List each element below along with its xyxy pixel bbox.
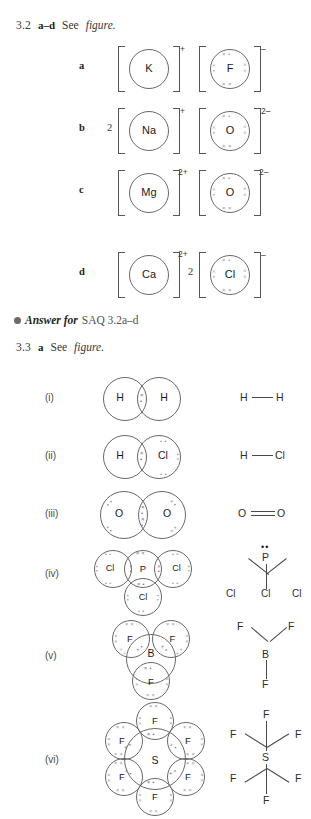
atom-circle-o-right: O • • • • xyxy=(138,491,186,539)
molecule-row-iii: (iii) O • • • • O • • • • × • × • O O xyxy=(0,486,311,544)
atom-circle-f: F × • × × × • × × xyxy=(210,49,250,89)
electron-pair-top: • • xyxy=(160,438,167,444)
molecule-roman-iv: (iv) xyxy=(45,568,59,579)
row-label-d: d xyxy=(79,266,85,277)
molecule-row-ii: (ii) H Cl • • • • • • × • H Cl xyxy=(0,428,311,486)
electron-pair-left: × • xyxy=(211,126,217,134)
question-3-3-see: See xyxy=(50,341,67,353)
bond-double-upper xyxy=(251,511,275,512)
molecule-row-i: (i) H H × • H H xyxy=(0,370,311,428)
structural-atom-cl: Cl xyxy=(275,449,285,461)
question-3-3-number: 3.3 xyxy=(16,341,31,353)
electron-pair-left: × × xyxy=(106,773,112,782)
electron-pair-bottom: • • xyxy=(172,581,179,587)
electron-pair-top: • • xyxy=(105,552,112,558)
electron-pair-right: × × xyxy=(242,187,248,197)
bond-single xyxy=(252,397,273,398)
ion-na-cation: 2 Na + xyxy=(118,108,180,154)
electron-pair-right: × × xyxy=(199,773,205,782)
shared-pair-top: × • xyxy=(147,732,155,738)
electron-pair-bottom: × × xyxy=(146,693,155,699)
bracket-left xyxy=(118,46,125,92)
electron-pair-bottom: × × xyxy=(183,788,192,794)
electron-pair-right: × × xyxy=(199,737,205,746)
electron-pair-top: × × xyxy=(114,761,123,767)
bracket-left xyxy=(118,252,125,298)
electron-pair-right: × × xyxy=(242,269,248,279)
molecule-roman-ii: (ii) xyxy=(45,450,56,461)
bracket-left xyxy=(199,108,206,154)
electron-pair-bottom: × × xyxy=(222,287,232,293)
ion-charge-k: + xyxy=(180,44,185,54)
bracket-right xyxy=(173,46,180,92)
bracket-left xyxy=(118,108,125,154)
atom-circle-mg: Mg xyxy=(129,173,169,213)
question-3-3-part: a xyxy=(38,341,44,353)
ion-multiplier-cl: 2 xyxy=(188,266,193,277)
bond-s-f-lower-left xyxy=(245,768,268,783)
electron-pair-top: × × xyxy=(149,704,158,710)
bracket-left xyxy=(199,170,206,216)
atom-symbol-na: Na xyxy=(130,124,168,136)
row-label-b: b xyxy=(79,122,85,133)
structural-atom-h-right: H xyxy=(276,391,284,403)
electron-pair-bottom: × × xyxy=(116,788,125,794)
electron-pair-top: × × xyxy=(183,725,192,731)
electron-pair-bottom: • • xyxy=(105,581,112,587)
bond-double-lower xyxy=(251,515,275,516)
ion-ca-cation: Ca 2+ xyxy=(118,252,180,298)
electron-pair-bottom: × × xyxy=(149,809,158,815)
question-3-2-number: 3.2 xyxy=(16,19,31,31)
shared-pair-bottom: × • xyxy=(144,666,152,672)
row-label-c: c xyxy=(79,184,84,195)
ion-charge-o: 2– xyxy=(259,167,268,177)
bond-b-f-upper-left xyxy=(251,627,269,642)
electron-pair-lower-left: • • xyxy=(105,524,114,533)
ion-k-cation: K + xyxy=(118,46,180,92)
lone-pair-top: × × xyxy=(136,551,145,557)
structural-atom-cl-center: Cl xyxy=(261,588,270,599)
bracket-left xyxy=(118,170,125,216)
answer-note-tail: SAQ 3.2a–d xyxy=(82,314,139,326)
electron-pair-right: × × xyxy=(168,793,174,802)
electron-pair-left: × • xyxy=(211,270,217,278)
bracket-left xyxy=(199,252,206,298)
bond-p-cl-center xyxy=(266,564,267,589)
ion-cl-anion: 2 Cl × • × × × • × × – xyxy=(199,252,261,298)
atom-circle-cl: Cl • • • • • • xyxy=(137,435,181,479)
electron-pair-right: × × xyxy=(242,63,248,73)
electron-pair-top: • • xyxy=(172,552,179,558)
shared-pair-bottom: × • xyxy=(147,780,155,786)
structural-atom-p: P xyxy=(262,551,269,563)
electron-pair-right: × × xyxy=(242,125,248,135)
atom-circle-f-upper-left: F × × × × × × xyxy=(105,722,143,760)
structural-atom-s-center: S xyxy=(262,751,269,763)
structural-atom-o-right: O xyxy=(277,507,285,519)
molecule-roman-vi: (vi) xyxy=(45,754,59,765)
bond-s-f-upper-left xyxy=(245,733,268,748)
electron-pair-left: × • xyxy=(211,188,217,196)
electron-pair-top: × • xyxy=(222,257,230,263)
atom-symbol-o: O xyxy=(149,507,185,519)
electron-pair-top: × • xyxy=(222,175,230,181)
electron-pair-left: × × xyxy=(137,793,143,802)
atom-circle-ca: Ca xyxy=(129,255,169,295)
ion-row-b: b 2 Na + O × • × × × • × × 2– xyxy=(0,104,311,156)
electron-pair-bottom-left: × × xyxy=(117,647,127,657)
electron-pair-top: × × xyxy=(186,761,195,767)
ion-row-a: a K + F × • × × × • × × – xyxy=(0,42,311,94)
ion-charge-na: + xyxy=(180,106,185,116)
atom-circle-o: O × • × × × • × × xyxy=(210,111,250,151)
bracket-right xyxy=(254,252,261,298)
structural-atom-o-left: O xyxy=(238,507,246,519)
atom-circle-h-right: H xyxy=(137,377,181,421)
bullet-icon xyxy=(14,317,21,324)
structural-atom-cl-right: Cl xyxy=(292,588,301,599)
bond-s-f-lower-right xyxy=(267,768,290,783)
shared-pair-right: × • xyxy=(155,565,161,573)
electron-pair-bottom: × × xyxy=(222,143,232,149)
electron-pair-left: × • xyxy=(211,64,217,72)
electron-pair-lower-right: • • xyxy=(169,524,178,533)
ion-o-anion: O × • × × × • × × 2– xyxy=(199,170,261,216)
shared-pair-electrons: • xyxy=(140,456,143,462)
